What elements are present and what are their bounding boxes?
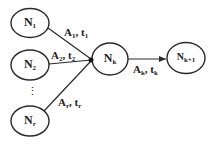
node-sub: 1 <box>33 22 37 30</box>
node-label-nk: Nk <box>104 52 117 66</box>
ellipsis-dots: ⋮ <box>27 86 38 97</box>
edge-t-sub: k <box>154 69 158 77</box>
edge-t-sub: 2 <box>72 55 76 63</box>
edge-t-sub: r <box>78 102 81 110</box>
edge-a: A <box>58 96 66 108</box>
node-sub: k+1 <box>184 56 195 64</box>
node-label-nk1: Nk+1 <box>177 52 196 64</box>
node-sub: r <box>33 120 36 128</box>
edge-t-sub: 1 <box>85 32 89 40</box>
edge-a: A <box>133 63 141 75</box>
edge-a: A <box>51 49 59 61</box>
edge-label-nr: Ar, tr <box>58 97 81 110</box>
node-base: N <box>24 113 33 127</box>
node-base: N <box>24 15 33 29</box>
edge-label-n2: A2, t2 <box>51 50 75 63</box>
junction-dot <box>89 58 94 63</box>
node-base: N <box>24 57 33 71</box>
node-label-nr: Nr <box>24 114 36 128</box>
node-sub: 2 <box>33 64 37 72</box>
diagram-canvas: N1 N2 Nr Nk Nk+1 ⋮ A1, t1 A2, t2 Ar, tr … <box>0 0 215 146</box>
edge-label-nk: Ak, tk <box>133 64 158 77</box>
node-sub: k <box>112 58 116 66</box>
node-label-n2: N2 <box>24 58 36 72</box>
edge-a: A <box>64 26 72 38</box>
node-label-n1: N1 <box>24 16 36 30</box>
node-base: N <box>104 51 113 65</box>
edge-label-n1: A1, t1 <box>64 27 88 40</box>
